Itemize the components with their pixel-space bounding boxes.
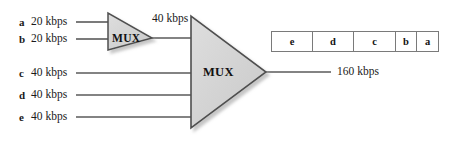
frame-slot-e: e <box>272 32 313 51</box>
mux2-output-rate-label: 160 kbps <box>337 66 379 78</box>
diagram-canvas: a 20 kbps b 20 kbps c 40 kbps d 40 kbps … <box>0 0 463 147</box>
input-id-d: d <box>19 90 25 101</box>
input-rate-c: 40 kbps <box>31 67 67 79</box>
input-rate-b: 20 kbps <box>31 33 67 45</box>
input-rate-a: 20 kbps <box>31 16 67 28</box>
frame-slot-b: b <box>396 32 417 51</box>
mux1-label: MUX <box>112 32 140 44</box>
input-id-e: e <box>19 112 24 123</box>
input-rate-e: 40 kbps <box>31 111 67 123</box>
frame-slot-a: a <box>417 32 438 51</box>
frame-slot-diagram: e d c b a <box>271 31 439 52</box>
frame-slot-d: d <box>313 32 354 51</box>
input-rate-d: 40 kbps <box>31 89 67 101</box>
input-id-b: b <box>19 34 25 45</box>
mux1-output-rate-label: 40 kbps <box>152 13 188 25</box>
frame-slot-c: c <box>354 32 396 51</box>
input-id-a: a <box>19 17 25 28</box>
mux2-label: MUX <box>203 65 234 80</box>
input-id-c: c <box>19 68 24 79</box>
